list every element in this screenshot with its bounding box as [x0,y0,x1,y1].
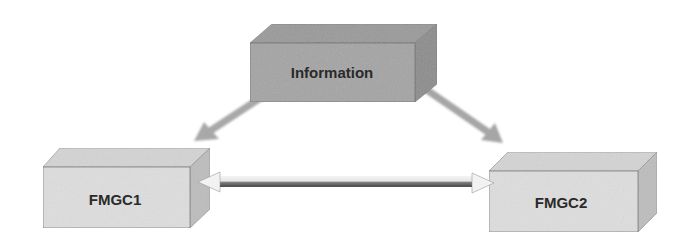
fmgc2-label: FMGC2 [535,194,588,211]
node-information [250,24,437,102]
information-top-face [250,24,437,43]
fmgc1-label: FMGC1 [89,191,142,208]
information-label: Information [291,64,374,81]
fmgc2-top-face [489,152,657,171]
arrow-information-to-fmgc2 [424,88,503,143]
fmgc1-top-face [43,148,210,167]
diagram-canvas: Information FMGC1 FMGC2 [0,0,695,249]
node-fmgc1 [43,148,210,228]
node-fmgc2 [489,152,657,232]
arrow-fmgc1-fmgc2-bidirectional [198,172,494,193]
